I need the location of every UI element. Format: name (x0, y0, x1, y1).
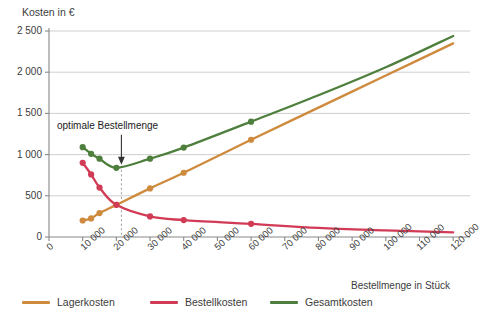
chart-legend: LagerkostenBestellkostenGesamtkosten (0, 292, 479, 314)
y-tick-label: 2 500 (0, 25, 42, 36)
legend-item[interactable]: Lagerkosten (22, 296, 115, 308)
legend-color-swatch (150, 301, 178, 304)
y-tick-label: 0 (0, 231, 42, 242)
y-tick-label: 1 500 (0, 107, 42, 118)
plot-area (0, 0, 479, 325)
y-tick-label: 1 000 (0, 149, 42, 160)
legend-label: Bestellkosten (185, 296, 247, 308)
y-tick-label: 500 (0, 190, 42, 201)
legend-item[interactable]: Bestellkosten (150, 296, 247, 308)
chart-root: Kosten in € Bestellmenge in Stück 05001 … (0, 0, 479, 325)
legend-item[interactable]: Gesamtkosten (270, 296, 373, 308)
legend-color-swatch (22, 301, 50, 304)
legend-label: Lagerkosten (57, 296, 115, 308)
optimum-annotation-label: optimale Bestellmenge (57, 120, 158, 131)
y-tick-label: 2 000 (0, 66, 42, 77)
legend-label: Gesamtkosten (305, 296, 373, 308)
legend-color-swatch (270, 301, 298, 304)
